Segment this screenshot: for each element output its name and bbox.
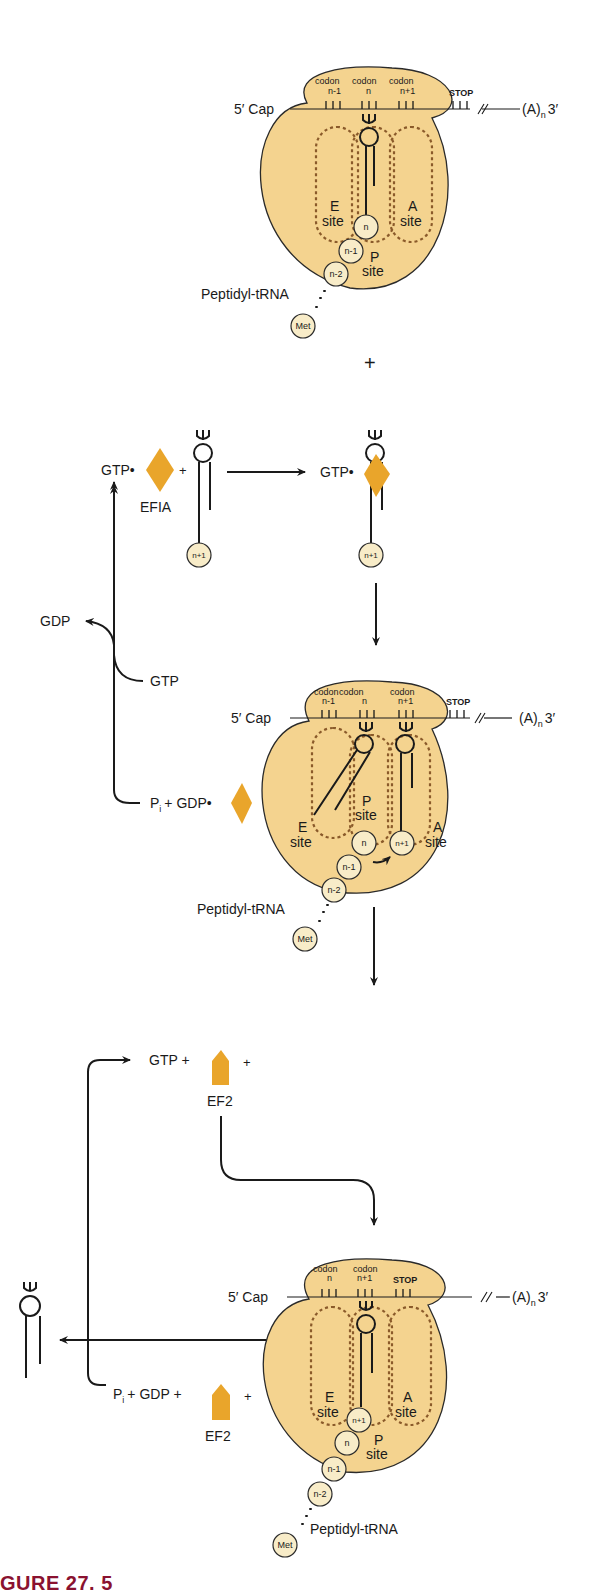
- poly-a-tail-label: (A)n3′: [519, 710, 555, 729]
- svg-text:n-2: n-2: [327, 885, 340, 895]
- ribosome-stage-2: codon n-1 codon n codon n+1 STOP 5′ Cap …: [197, 681, 555, 985]
- svg-text:n: n: [361, 838, 366, 848]
- e-site-label: site: [322, 213, 344, 229]
- e-site-label: site: [290, 834, 312, 850]
- mrna-break-icon: [481, 1292, 492, 1302]
- codon-label: codon: [352, 76, 377, 86]
- ef2-binding-arrow: [221, 1116, 374, 1225]
- recycle-line: [114, 482, 140, 803]
- residue: n-1: [322, 1457, 346, 1481]
- p-site-label: site: [355, 807, 377, 823]
- plus-sign: +: [244, 1389, 252, 1404]
- codon-label: codon: [389, 76, 414, 86]
- a-site-label: A: [408, 198, 418, 214]
- residue: n+1: [187, 543, 211, 567]
- stop-codon-label: STOP: [393, 1275, 417, 1285]
- ribosome-stage-1: codon n-1 codon n codon n+1 STOP 5′ Cap …: [201, 67, 558, 338]
- figure-caption: GURE 27. 5: [0, 1572, 113, 1594]
- residue: n-2: [324, 262, 348, 286]
- residue: n+1: [390, 831, 414, 855]
- svg-text:n-1: n-1: [344, 246, 357, 256]
- svg-text:n+1: n+1: [192, 551, 206, 560]
- recycle-loop: [88, 1060, 130, 1385]
- e-site-label: E: [298, 819, 307, 835]
- svg-text:n-2: n-2: [329, 269, 342, 279]
- ef1a-diamond-icon: [231, 783, 252, 824]
- codon-index: n: [327, 1273, 332, 1283]
- e-site-label: site: [317, 1404, 339, 1420]
- released-trna: [20, 1282, 40, 1378]
- e-site-label: E: [325, 1389, 334, 1405]
- p-site-label: site: [366, 1446, 388, 1462]
- ef1a-label: EFIA: [140, 499, 172, 515]
- a-site-label: site: [425, 834, 447, 850]
- peptidyl-trna-label: Peptidyl-tRNA: [310, 1521, 399, 1537]
- svg-text:n-1: n-1: [342, 862, 355, 872]
- pi-gdp-label: Pi+ GDP +: [113, 1386, 182, 1405]
- plus-sign: +: [364, 352, 376, 374]
- gtp-label: GTP: [150, 673, 179, 689]
- poly-a-tail-label: (A)n3′: [512, 1289, 548, 1308]
- residue: n-1: [337, 855, 361, 879]
- gtp-label: GTP +: [149, 1052, 190, 1068]
- a-site-label: site: [395, 1404, 417, 1420]
- residue: n: [354, 215, 378, 239]
- five-prime-cap-label: 5′ Cap: [228, 1289, 268, 1305]
- codon-label: codon: [313, 1264, 338, 1274]
- mrna-break-icon: [475, 713, 485, 723]
- five-prime-cap-label: 5′ Cap: [234, 101, 274, 117]
- stop-codon-label: STOP: [449, 88, 473, 98]
- met-residue: Met: [291, 314, 315, 338]
- peptide-dots: [319, 905, 328, 921]
- ef2-label: EF2: [207, 1093, 233, 1109]
- ef1a-diamond-icon: [364, 454, 390, 497]
- codon-index: n: [366, 86, 371, 96]
- ribosome-stage-3: codon n codon n+1 STOP 5′ Cap (A)n3′ E s…: [228, 1259, 548, 1557]
- plus-sign: +: [179, 463, 187, 478]
- aminoacyl-trna: [194, 430, 212, 543]
- svg-text:n-2: n-2: [313, 1489, 326, 1499]
- peptidyl-trna-label: Peptidyl-tRNA: [201, 286, 290, 302]
- residue: n-2: [308, 1482, 332, 1506]
- a-site-label: A: [433, 819, 443, 835]
- a-site-label: site: [400, 213, 422, 229]
- gtp-in-curve: [114, 655, 143, 681]
- svg-text:n: n: [344, 1438, 349, 1448]
- svg-text:Met: Met: [297, 934, 313, 944]
- svg-text:n: n: [363, 222, 368, 232]
- stop-codon-label: STOP: [446, 697, 470, 707]
- codon-index: n+1: [398, 696, 413, 706]
- residue: n: [352, 831, 376, 855]
- e-site-label: E: [330, 198, 339, 214]
- codon-index: n-1: [322, 696, 335, 706]
- peptidyl-trna-label: Peptidyl-tRNA: [197, 901, 286, 917]
- ef2-factor-icon: [212, 1050, 229, 1085]
- svg-text:Met: Met: [295, 321, 311, 331]
- codon-index: n-1: [328, 86, 341, 96]
- codon-index: n+1: [357, 1273, 372, 1283]
- peptide-dots: [316, 291, 325, 307]
- plus-sign: +: [243, 1055, 251, 1070]
- five-prime-cap-label: 5′ Cap: [231, 710, 271, 726]
- residue: n-2: [322, 878, 346, 902]
- p-site-label: site: [362, 263, 384, 279]
- residue: n-1: [339, 239, 363, 263]
- codon-label: codon: [339, 687, 364, 697]
- poly-a-tail-label: (A)n3′: [522, 101, 558, 120]
- ef2-label: EF2: [205, 1428, 231, 1444]
- pi-gdp-label: Pi+ GDP•: [150, 795, 212, 814]
- gtp-label: GTP•: [101, 462, 135, 478]
- residue: n+1: [347, 1408, 371, 1432]
- met-residue: Met: [273, 1533, 297, 1557]
- ternary-complex: [364, 430, 390, 543]
- a-site-label: A: [403, 1389, 413, 1405]
- codon-label: codon: [315, 76, 340, 86]
- codon-index: n+1: [400, 86, 415, 96]
- svg-text:n+1: n+1: [352, 1416, 366, 1425]
- gdp-label: GDP: [40, 613, 70, 629]
- svg-text:n+1: n+1: [395, 839, 409, 848]
- residue: n: [335, 1431, 359, 1455]
- gtp-label: GTP•: [320, 464, 354, 480]
- met-residue: Met: [293, 927, 317, 951]
- ef2-factor-icon: [212, 1384, 230, 1420]
